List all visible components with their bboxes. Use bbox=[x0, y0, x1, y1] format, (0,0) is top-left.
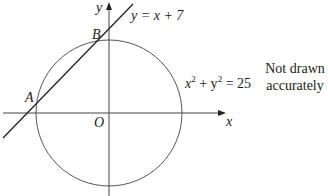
point-b-label: B bbox=[92, 27, 101, 42]
x-axis-arrow-icon bbox=[218, 110, 226, 116]
y-axis-label: y bbox=[94, 0, 103, 15]
note-line-1: Not drawn bbox=[262, 60, 328, 77]
point-a-label: A bbox=[24, 90, 34, 105]
svg-text:x2 + y2 = 25: x2 + y2 = 25 bbox=[184, 74, 251, 91]
note-line-2: accurately bbox=[262, 77, 328, 94]
y-axis-arrow-icon bbox=[106, 2, 112, 10]
line-y-equals-x-plus-7 bbox=[3, 4, 133, 138]
origin-label: O bbox=[94, 115, 104, 130]
not-drawn-note: Not drawn accurately bbox=[262, 60, 328, 94]
x-axis-label: x bbox=[225, 114, 233, 129]
line-equation: y = x + 7 bbox=[129, 8, 184, 23]
diagram-canvas: y x O B A y = x + 7 x2 + y2 = 25 Not dra… bbox=[0, 0, 328, 196]
circle-equation: x2 + y2 = 25 bbox=[184, 74, 251, 91]
diagram-svg: y x O B A y = x + 7 x2 + y2 = 25 bbox=[0, 0, 328, 196]
